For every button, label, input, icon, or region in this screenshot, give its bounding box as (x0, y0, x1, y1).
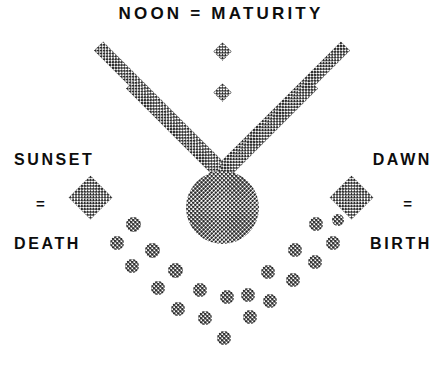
chevron-outer-apex (213, 42, 231, 60)
scatter-dot (125, 259, 139, 273)
equals-sign-left: = (36, 196, 45, 211)
scatter-dot (193, 283, 207, 297)
equals-sign-right: = (403, 196, 412, 211)
artwork-layer (0, 0, 442, 368)
scatter-dot (110, 236, 124, 250)
scatter-dot (308, 255, 322, 269)
scatter-dot (261, 265, 275, 279)
dawn-diamond (330, 176, 374, 220)
label-birth: BIRTH (370, 236, 432, 252)
scatter-dot (151, 281, 165, 295)
sun-circle (186, 171, 259, 244)
scatter-dot (220, 290, 234, 304)
scatter-dot (126, 217, 141, 232)
scatter-dot (286, 273, 300, 287)
sunset-diamond (69, 176, 113, 220)
label-death: DEATH (14, 236, 81, 252)
diagram-canvas: NOON = MATURITY SUNSET = DEATH DAWN = BI… (0, 0, 442, 368)
scatter-dot (145, 243, 160, 258)
scatter-dot (171, 302, 185, 316)
scatter-dot (243, 310, 257, 324)
chevron-inner-apex (213, 83, 231, 101)
scatter-dot (309, 217, 323, 231)
scatter-dot (263, 294, 277, 308)
scatter-dot (288, 243, 302, 257)
scatter-dot (168, 263, 183, 278)
scatter-dot (217, 331, 231, 345)
scatter-dot (332, 214, 344, 226)
page-title: NOON = MATURITY (0, 5, 442, 22)
label-dawn: DAWN (373, 152, 432, 168)
scatter-dot (326, 236, 340, 250)
scatter-dot (241, 288, 255, 302)
label-sunset: SUNSET (14, 152, 95, 168)
scatter-dot (198, 311, 212, 325)
